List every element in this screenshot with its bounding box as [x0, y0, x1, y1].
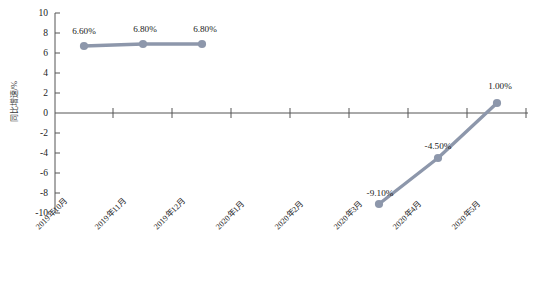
data-point-label: -9.10%: [367, 188, 394, 198]
data-point-label: 6.60%: [72, 26, 96, 36]
data-point-marker: [139, 40, 147, 48]
series-markers: [80, 40, 501, 208]
data-point-label: -4.50%: [425, 141, 452, 151]
data-point-label: 6.80%: [193, 24, 217, 34]
series-line-segment-2: [379, 103, 497, 204]
plot-area: [0, 0, 539, 283]
data-point-marker: [198, 40, 206, 48]
data-point-label: 6.80%: [133, 24, 157, 34]
data-point-marker: [493, 99, 501, 107]
data-point-label: 1.00%: [488, 81, 512, 91]
data-point-marker: [375, 200, 383, 208]
chart-container: 同比增速/% 10 8 6 4 2 0 -2 -4 -6 -8 -10: [0, 0, 539, 283]
data-point-marker: [434, 154, 442, 162]
data-point-marker: [80, 42, 88, 50]
